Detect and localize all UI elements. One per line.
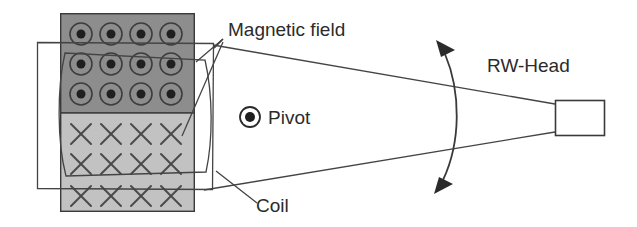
magnetic-field-label: Magnetic field [228,19,345,40]
coil-label: Coil [256,195,289,216]
rw-head-box [556,101,605,136]
arrow-head-up [436,40,455,57]
diagram-canvas: Magnetic field Pivot Coil RW-Head [0,0,637,227]
pivot-label: Pivot [268,107,311,128]
magnetic-actuator-diagram: Magnetic field Pivot Coil RW-Head [0,0,637,227]
rw-head-label: RW-Head [487,55,570,76]
arrow-head-down [434,177,453,194]
swing-arc-double-arrow [434,40,457,194]
pivot-legend-icon [240,107,260,127]
